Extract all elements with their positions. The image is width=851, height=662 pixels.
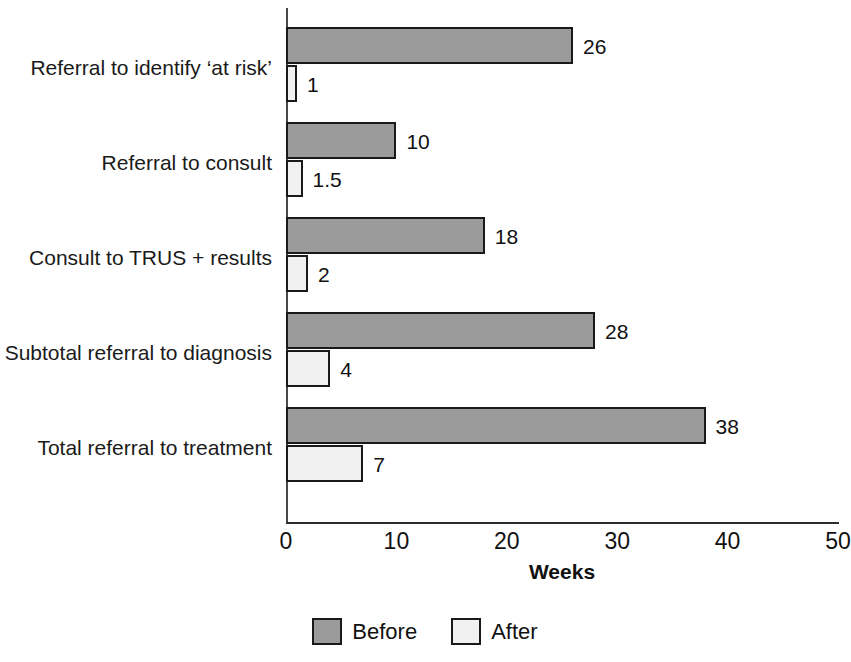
legend-swatch-before-icon [312, 618, 342, 645]
bar-group: 182 [286, 217, 838, 295]
legend-swatch-after-icon [451, 618, 481, 645]
legend-label-after: After [491, 621, 537, 643]
x-tick-label: 40 [715, 530, 741, 553]
bar-group: 284 [286, 312, 838, 390]
bar-group: 101.5 [286, 122, 838, 200]
chart-legend: Before After [0, 618, 850, 645]
bar-before [286, 27, 573, 64]
x-tick-label: 20 [494, 530, 520, 553]
x-axis-ticks: 01020304050 [0, 526, 850, 560]
legend-item-before: Before [312, 618, 417, 645]
bar-after [286, 350, 330, 387]
x-axis-title: Weeks [286, 560, 838, 584]
bar-value-after: 4 [340, 359, 352, 380]
x-tick-label: 30 [604, 530, 630, 553]
category-label: Total referral to treatment [0, 437, 272, 458]
bar-group: 387 [286, 407, 838, 485]
bar-after [286, 65, 297, 102]
bar-before [286, 217, 485, 254]
legend-label-before: Before [352, 621, 417, 643]
bar-after [286, 445, 363, 482]
bar-value-before: 38 [716, 416, 739, 437]
category-label: Subtotal referral to diagnosis [0, 342, 272, 363]
bar-value-before: 10 [406, 131, 429, 152]
x-tick-label: 50 [825, 530, 851, 553]
x-axis-title-text: Weeks [529, 560, 595, 583]
category-labels: Referral to identify ‘at risk’Referral t… [0, 8, 272, 524]
bar-before [286, 122, 396, 159]
bar-value-after: 7 [373, 454, 385, 475]
bar-before [286, 407, 706, 444]
category-label: Consult to TRUS + results [0, 247, 272, 268]
bar-value-before: 28 [605, 321, 628, 342]
plot-area: 261101.5182284387 [286, 8, 838, 524]
bar-after [286, 255, 308, 292]
category-label: Referral to identify ‘at risk’ [0, 57, 272, 78]
bar-group: 261 [286, 27, 838, 105]
bar-before [286, 312, 595, 349]
bar-after [286, 160, 303, 197]
bar-value-after: 2 [318, 264, 330, 285]
bar-value-after: 1.5 [313, 169, 342, 190]
x-tick-label: 0 [280, 530, 293, 553]
category-label: Referral to consult [0, 152, 272, 173]
legend-item-after: After [451, 618, 537, 645]
bar-value-before: 26 [583, 36, 606, 57]
bar-value-after: 1 [307, 74, 319, 95]
x-tick-label: 10 [384, 530, 410, 553]
bar-value-before: 18 [495, 226, 518, 247]
